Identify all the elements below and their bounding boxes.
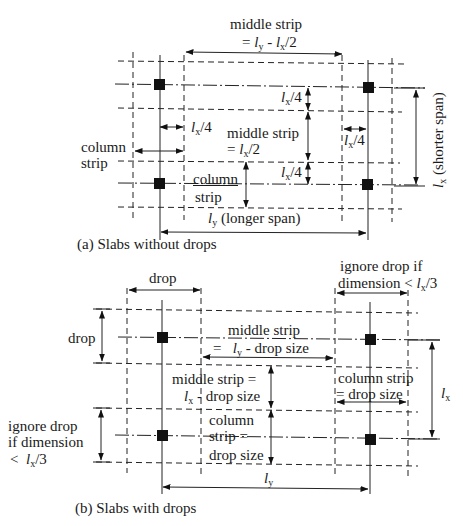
b-lx-label: lx [441,385,450,406]
b-middle-strip-top-1: middle strip [228,322,300,338]
text: = [227,141,239,157]
text: dimension < [338,275,413,291]
text: = [242,34,254,50]
text: y [268,477,273,488]
a-middle-strip-center-1: middle strip [227,125,299,141]
b-ly-label: ly [264,470,273,491]
text: /4 [290,164,302,180]
a-column-strip-left-2: strip [81,155,108,171]
text: /2 [285,34,297,50]
text: - drop size [242,340,309,356]
a-column-strip-center-1: column [193,171,238,187]
a-middle-strip-title: middle strip [230,16,302,32]
b-column-strip-right-1: column strip [338,370,413,386]
b-ignore-top-1: ignore drop if [340,258,422,274]
text: /4 [290,89,302,105]
text: x [445,392,450,403]
text: x [437,179,448,184]
b-ignore-left-2: if dimension [8,434,83,450]
a-column-strip-left-1: column [81,139,126,155]
a-lx4-bottom: lx/4 [281,164,302,185]
b-ignore-left-3: < lx/3 [10,451,47,472]
a-lx4-right: lx/4 [344,132,365,153]
caption-b: (b) Slabs with drops [75,500,196,516]
text: l [430,184,446,188]
text: < [10,451,18,467]
b-ignore-left-1: ignore drop [8,418,78,434]
text: /2 [248,141,260,157]
text: - [263,34,276,50]
a-lx4-left: lx/4 [191,119,212,140]
text: /4 [353,132,365,148]
a-middle-strip-formula: = ly - lx/2 [242,34,297,55]
text: = [213,340,221,356]
b-ignore-top-2: dimension < lx/3 [338,275,437,296]
b-column-strip-center-1: column [209,412,254,428]
a-column-strip-center-2: strip [195,189,222,205]
b-column-strip-center-3: drop size [209,447,264,463]
text: - drop size [193,388,260,404]
b-column-strip-right-2: = drop size [336,386,403,402]
a-shorter-span: lx (shorter span) [430,92,451,188]
caption-a: (a) Slabs without drops [77,236,217,252]
b-middle-strip-mid-1: middle strip = [172,371,256,387]
text: /3 [426,275,438,291]
b-drop-left: drop [68,330,96,346]
b-column-strip-center-2: strip = [209,428,248,444]
a-middle-strip-center-2: = lx/2 [227,141,260,162]
b-middle-strip-top-2: = ly - drop size [213,340,309,361]
b-middle-strip-mid-2: lx - drop size [184,388,260,409]
a-lx4-top: lx/4 [281,89,302,110]
text: /4 [200,119,212,135]
a-longer-span: ly (longer span) [208,210,300,231]
text: (shorter span) [430,92,446,179]
text: /3 [35,451,47,467]
b-drop-top: drop [149,270,177,286]
text: (longer span) [217,210,300,226]
